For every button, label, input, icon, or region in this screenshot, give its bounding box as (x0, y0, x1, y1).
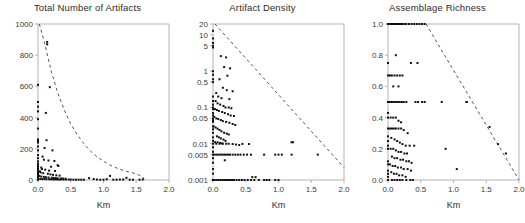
scatter-plot-artifact-density: 0.00.51.01.52.02010510.50.10.050.010.005… (175, 0, 350, 223)
data-point (410, 170, 412, 172)
data-point (497, 143, 499, 145)
data-point (391, 101, 393, 103)
data-point (405, 145, 407, 147)
y-tick-label: 5 (204, 42, 209, 51)
data-point (215, 143, 217, 145)
data-point (397, 120, 399, 122)
data-point (227, 179, 229, 181)
data-point (395, 101, 397, 103)
data-point (396, 157, 398, 159)
x-tick-label: 1.0 (98, 185, 110, 194)
y-tick-label: 10 (199, 31, 208, 40)
data-point-group (212, 30, 319, 181)
data-point (387, 135, 389, 137)
data-point (389, 101, 391, 103)
data-point (212, 143, 214, 145)
data-point (80, 179, 82, 181)
data-point (47, 160, 49, 162)
data-point (397, 128, 399, 130)
data-point (212, 136, 214, 138)
data-point (213, 116, 215, 118)
data-point (236, 179, 238, 181)
data-point (37, 84, 39, 86)
data-point (37, 160, 39, 162)
data-point (226, 89, 228, 91)
data-point (37, 118, 39, 120)
data-point (93, 178, 95, 180)
data-point (421, 23, 423, 25)
data-point (96, 179, 98, 181)
data-point (406, 152, 408, 154)
data-point (225, 56, 227, 58)
x-tick-label: 1.0 (273, 185, 285, 194)
data-point (407, 168, 409, 170)
data-point (70, 179, 72, 181)
data-point (109, 175, 111, 177)
data-point (281, 154, 283, 156)
data-point (390, 117, 392, 119)
data-point (225, 121, 227, 123)
data-point (390, 137, 392, 139)
data-point (412, 179, 414, 181)
data-point (222, 87, 224, 89)
data-point (103, 179, 105, 181)
data-point (215, 100, 217, 102)
data-point (411, 23, 413, 25)
y-tick-label: 0.1 (197, 103, 209, 112)
data-point (400, 128, 402, 130)
data-point (212, 42, 214, 44)
scatter-plot-total-artifacts: 0.00.51.01.52.002004006008001000Km (0, 0, 175, 223)
data-point (219, 104, 221, 106)
y-tick-label: 0.6 (372, 82, 384, 91)
data-point (219, 143, 221, 145)
data-point (390, 171, 392, 173)
x-axis-title: Km (447, 200, 461, 210)
data-point (409, 145, 411, 147)
data-point (424, 23, 426, 25)
data-point (409, 179, 411, 181)
data-point (125, 177, 127, 179)
data-point (212, 119, 214, 121)
data-point (411, 162, 413, 164)
data-point (221, 154, 223, 156)
data-point (37, 145, 39, 147)
data-point (238, 144, 240, 146)
y-tick-label: 0.001 (188, 176, 209, 185)
data-point (243, 179, 245, 181)
data-point (466, 101, 468, 103)
data-point (417, 101, 419, 103)
figure-panel-group: Total Number of Artifacts 0.00.51.01.52.… (0, 0, 525, 223)
data-point (46, 43, 48, 45)
data-point (46, 178, 48, 180)
data-point (212, 151, 214, 153)
data-point (389, 74, 391, 76)
x-tick-label: 2.0 (513, 185, 525, 194)
data-point (212, 132, 214, 134)
data-point (221, 130, 223, 132)
data-point (421, 101, 423, 103)
data-point (387, 179, 389, 181)
data-point (407, 132, 409, 134)
data-point (415, 101, 417, 103)
data-point (37, 106, 39, 108)
data-point (106, 178, 108, 180)
data-point (253, 179, 255, 181)
data-point (214, 108, 216, 110)
data-point (232, 143, 234, 145)
y-tick-label: 0.05 (192, 114, 208, 123)
data-point (229, 179, 231, 181)
data-point (387, 160, 389, 162)
x-tick-label: 1.0 (448, 185, 460, 194)
data-point (38, 178, 40, 180)
data-point (248, 143, 250, 145)
data-point (408, 160, 410, 162)
data-point (240, 154, 242, 156)
data-point (387, 173, 389, 175)
data-point (212, 121, 214, 123)
data-point (403, 129, 405, 131)
data-point (392, 85, 394, 87)
data-point (397, 85, 399, 87)
data-point (212, 74, 214, 76)
data-point (403, 168, 405, 170)
data-point (228, 122, 230, 124)
